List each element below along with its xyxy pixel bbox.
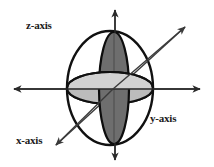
figure-canvas: z-axis x-axis y-axis — [0, 0, 214, 167]
x-axis-label: x-axis — [16, 134, 42, 146]
z-axis-label: z-axis — [26, 19, 52, 31]
y-axis-label: y-axis — [150, 112, 176, 124]
